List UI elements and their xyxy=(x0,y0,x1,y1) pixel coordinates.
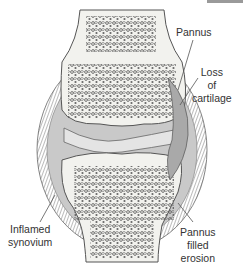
label-inflamed-synovium: Inflamed synovium xyxy=(8,223,52,249)
label-line: cartilage xyxy=(192,92,232,105)
label-line: erosion xyxy=(180,252,216,265)
label-line: Pannus xyxy=(180,226,216,239)
label-pannus-filled-erosion: Pannus filled erosion xyxy=(180,226,216,265)
lower-bone xyxy=(62,153,182,262)
upper-bone xyxy=(61,10,186,126)
label-pannus: Pannus xyxy=(176,26,212,39)
label-line: of xyxy=(192,79,232,92)
label-loss-of-cartilage: Loss of cartilage xyxy=(192,66,232,105)
label-pannus-text: Pannus xyxy=(176,26,212,38)
label-line: synovium xyxy=(8,236,52,249)
label-line: filled xyxy=(180,239,216,252)
label-line: Loss xyxy=(192,66,232,79)
label-line: Inflamed xyxy=(8,223,52,236)
